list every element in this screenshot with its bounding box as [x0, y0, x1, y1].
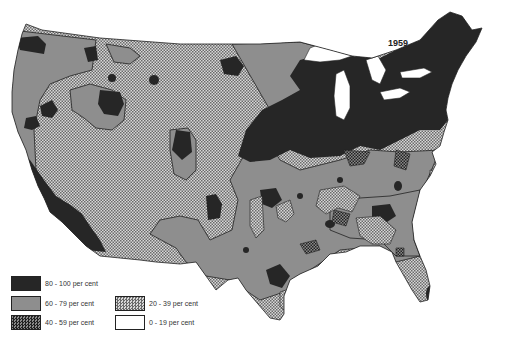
choropleth-map [0, 0, 515, 338]
map-year-label: 1959 [388, 38, 408, 48]
map-fills [0, 0, 515, 338]
